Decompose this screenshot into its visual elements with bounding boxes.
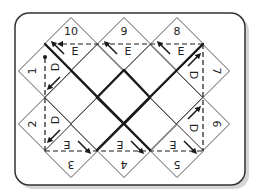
cell-letter: D — [187, 71, 200, 79]
cell-letter: E — [63, 138, 70, 151]
cell-number: 3 — [68, 158, 75, 171]
cell-number: 5 — [174, 158, 181, 171]
cell-letter: D — [49, 116, 62, 124]
cell-letter: D — [187, 124, 200, 132]
cell-number: 7 — [210, 68, 223, 75]
cell-number: 9 — [121, 25, 128, 38]
cell-number: 6 — [210, 121, 223, 128]
cell-letter: D — [49, 63, 62, 71]
cell-letter: E — [169, 138, 176, 151]
cell-number: 10 — [64, 25, 78, 38]
diagram-canvas: 10E9E8E1D7D2D6D3E4E5E — [0, 0, 258, 196]
cell-number: 8 — [174, 25, 181, 38]
cell-number: 1 — [26, 68, 39, 75]
cell-letter: E — [116, 138, 123, 151]
cell-number: 4 — [121, 158, 128, 171]
cell-letter: E — [125, 45, 132, 58]
dashed-start-dot — [43, 55, 47, 59]
folding-diagram: 10E9E8E1D7D2D6D3E4E5E — [0, 0, 258, 196]
cell-number: 2 — [26, 121, 39, 128]
cell-letter: E — [72, 45, 79, 58]
cell-letter: E — [178, 45, 185, 58]
